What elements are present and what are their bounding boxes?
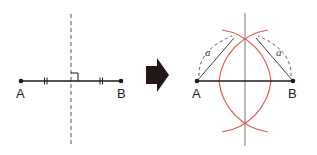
label-a-right: A	[192, 86, 201, 101]
point-a-right	[195, 79, 200, 84]
right-arrow-icon	[146, 58, 169, 92]
right-angle-mark	[71, 73, 78, 81]
label-b-left: B	[117, 86, 126, 101]
radius-label-left: a	[205, 46, 211, 58]
right-figure: a a A B	[192, 13, 297, 146]
dashed-arc-b	[258, 36, 291, 76]
point-a	[19, 79, 24, 84]
point-b-right	[291, 79, 296, 84]
point-b	[119, 79, 124, 84]
label-a-left: A	[16, 86, 25, 101]
bisector-construction-diagram: A B a a A B	[0, 0, 317, 155]
label-b-right: B	[288, 86, 297, 101]
radius-label-right: a	[276, 46, 282, 58]
left-figure: A B	[16, 14, 126, 146]
dashed-arc-a	[199, 36, 232, 76]
